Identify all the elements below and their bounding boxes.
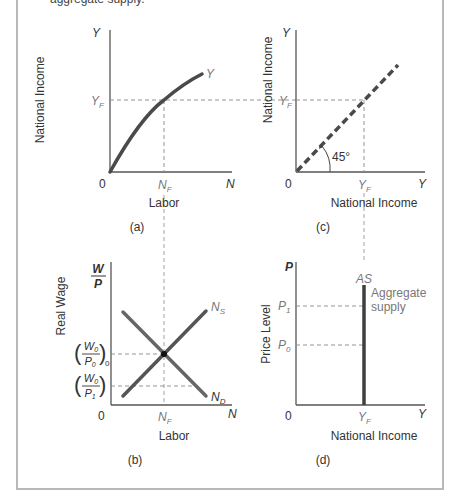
svg-text:P1: P1 xyxy=(84,387,95,400)
as-desc-line2: supply xyxy=(371,300,406,314)
curve-label-y: Y xyxy=(206,67,215,81)
panel-b-origin: 0 xyxy=(98,409,105,423)
panel-d-x-title: National Income xyxy=(331,429,418,443)
panel-b-nf-tick: NF xyxy=(158,410,173,426)
panel-b-x-title: Labor xyxy=(159,429,190,443)
panel-b-x-symbol: N xyxy=(228,407,237,421)
svg-text:): ) xyxy=(99,372,106,397)
svg-text:0: 0 xyxy=(105,359,110,368)
panel-a-y-title: National Income xyxy=(33,56,47,143)
panel-d-y-symbol: P xyxy=(285,260,294,274)
panel-d-y-title: Price Level xyxy=(259,304,273,363)
panel-c-45-degree-line: 45° Y YF 0 YF Y National Income (c) Nati… xyxy=(261,26,427,262)
panel-d-aggregate-supply: AS Aggregate supply P P1 P0 0 YF Y Natio… xyxy=(259,260,427,467)
p0-tick: P0 xyxy=(278,338,291,354)
angle-label: 45° xyxy=(332,150,350,164)
wage-low-label: ( W0 P1 ) xyxy=(74,372,106,400)
panel-a-production-function: Y Y YF 0 NF N Labor (a) National Income xyxy=(33,26,296,405)
panel-b-y-title: Real Wage xyxy=(54,276,68,335)
panel-a-origin: 0 xyxy=(99,177,106,191)
panel-b-y-den: P xyxy=(94,277,103,291)
panel-c-yf-x-tick: YF xyxy=(358,178,372,194)
svg-text:(: ( xyxy=(74,340,82,365)
angle-arc xyxy=(322,146,330,172)
panel-c-x-title: National Income xyxy=(331,196,418,210)
panel-b-tag: (b) xyxy=(128,453,143,467)
panel-d-x-symbol: Y xyxy=(418,407,427,421)
p1-tick: P1 xyxy=(278,299,290,315)
panel-c-origin: 0 xyxy=(285,177,292,191)
panel-b-labor-market: NS ND W P ( W0 P0 ) 0 ( W0 P1 ) 0 NF N L… xyxy=(54,262,237,467)
panel-a-nf-tick: NF xyxy=(158,178,173,194)
as-desc-line1: Aggregate xyxy=(371,286,427,300)
svg-text:W0: W0 xyxy=(84,372,98,385)
panel-a-x-symbol: N xyxy=(226,177,235,191)
panel-c-y-title: National Income xyxy=(261,36,275,123)
panel-a-yf-tick: YF xyxy=(91,94,105,110)
four-panel-diagram: Y Y YF 0 NF N Labor (a) National Income … xyxy=(0,0,456,502)
equilibrium-point xyxy=(161,351,167,357)
panel-a-y-symbol: Y xyxy=(92,26,101,40)
panel-c-tag: (c) xyxy=(316,220,330,234)
panel-c-yf-tick: YF xyxy=(279,94,293,110)
panel-c-y-symbol: Y xyxy=(282,26,291,40)
panel-a-tag: (a) xyxy=(130,220,145,234)
svg-text:W0: W0 xyxy=(84,340,98,353)
panel-d-tag: (d) xyxy=(316,453,331,467)
panel-d-origin: 0 xyxy=(285,409,292,423)
demand-label: ND xyxy=(211,390,226,406)
production-curve xyxy=(110,74,202,172)
svg-text:P0: P0 xyxy=(84,355,95,368)
supply-label: NS xyxy=(211,300,226,316)
svg-text:(: ( xyxy=(74,372,82,397)
panel-a-x-title: Labor xyxy=(149,196,180,210)
as-label: AS xyxy=(355,272,372,286)
panel-b-y-num: W xyxy=(92,262,105,276)
wage-high-label: ( W0 P0 ) 0 xyxy=(74,340,110,368)
panel-c-x-symbol: Y xyxy=(418,177,427,191)
panel-d-yf-tick: YF xyxy=(358,410,372,426)
